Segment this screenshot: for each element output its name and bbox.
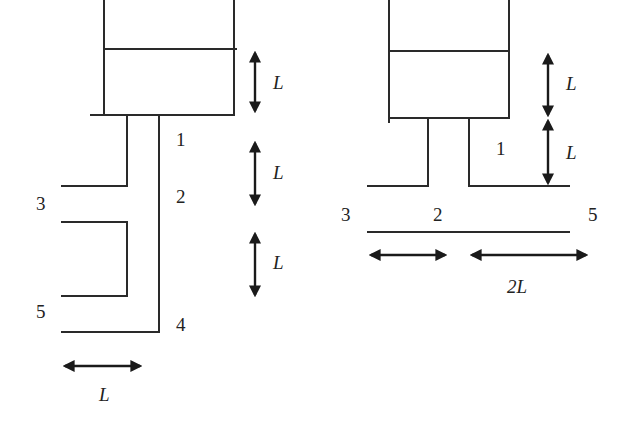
dimension-label-tank: L (565, 73, 577, 94)
node-label-2: 2 (176, 186, 186, 207)
left-figure: 1 2 3 5 4 L L L L (36, 0, 284, 405)
dimension-label-1-2: L (272, 162, 284, 183)
dimension-label-2-4: L (272, 252, 284, 273)
dimension-label-pipe: L (565, 142, 577, 163)
left-tank (91, 0, 236, 115)
node-label-4: 4 (176, 314, 186, 335)
left-branch-pipe (62, 115, 127, 296)
dimension-label-spacing: L (98, 384, 110, 405)
right-tank (389, 0, 509, 122)
node-label-3: 3 (341, 204, 351, 225)
node-label-2: 2 (433, 204, 443, 225)
node-label-5: 5 (588, 204, 598, 225)
node-label-3: 3 (36, 193, 46, 214)
right-figure: 1 3 2 5 L L 2L (341, 0, 598, 297)
right-dimension-arrows (371, 55, 586, 255)
left-main-pipe (62, 115, 159, 332)
right-pipes (368, 118, 569, 232)
node-label-1: 1 (496, 138, 506, 159)
node-label-5: 5 (36, 301, 46, 322)
node-label-1: 1 (176, 129, 186, 150)
dimension-label-tank: L (272, 72, 284, 93)
diagram-canvas: 1 2 3 5 4 L L L L 1 3 2 5 L (0, 0, 618, 422)
dimension-label-right-length: 2L (507, 276, 527, 297)
